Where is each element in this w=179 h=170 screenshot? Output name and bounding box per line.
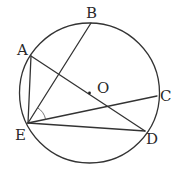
label-a: A [16,41,28,59]
label-d: D [146,130,158,148]
label-e: E [15,126,26,144]
label-b: B [86,4,97,22]
segment-ed [28,123,145,131]
angle-arc-bec [38,108,46,120]
segment-ae [28,56,31,123]
segment-ad [31,56,145,131]
label-o: O [97,79,109,97]
segment-eb [28,23,91,123]
circle-geometry-diagram: A B C D E O [0,0,179,170]
center-point-o [88,92,91,95]
label-c: C [160,87,171,105]
segment-ec [28,96,157,123]
